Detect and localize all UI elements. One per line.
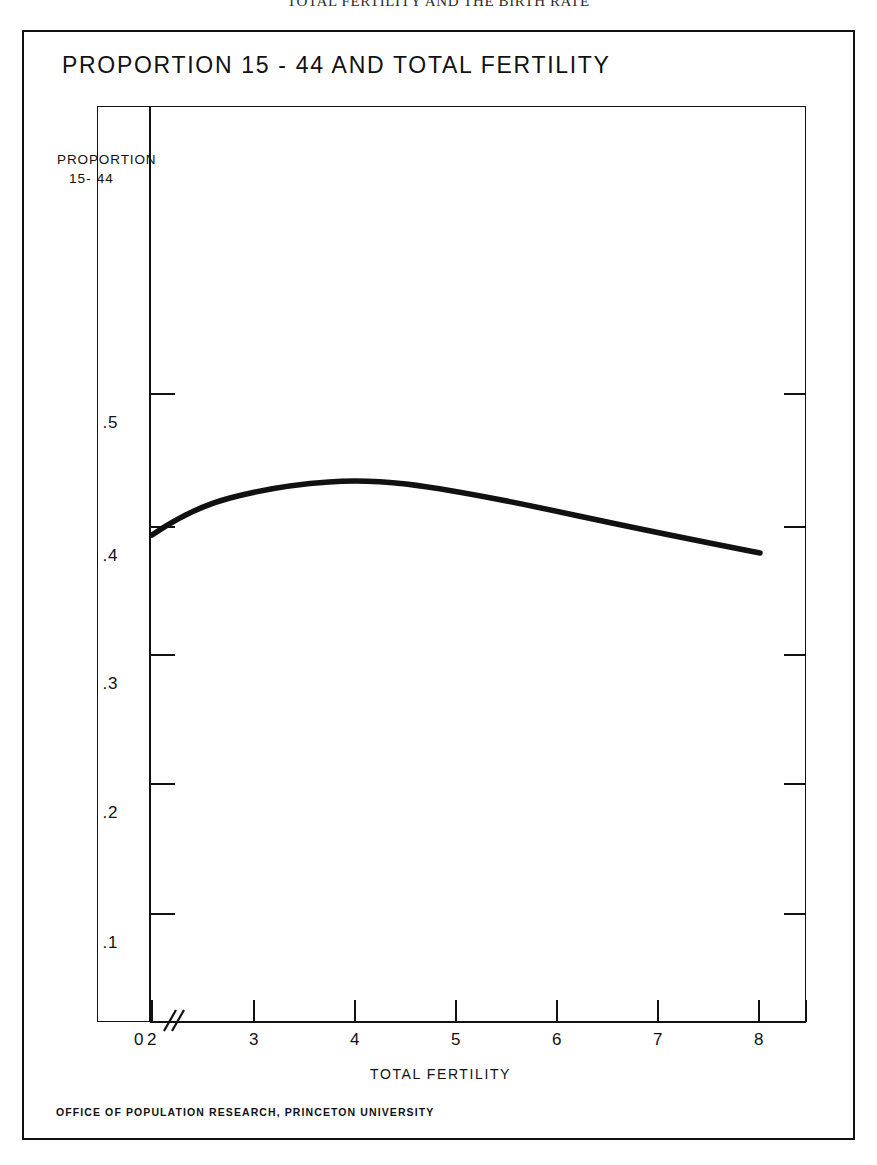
x-tick-label-8: 8	[744, 1030, 774, 1050]
x-tick-marks	[152, 1000, 806, 1022]
x-tick-label-5: 5	[441, 1030, 471, 1050]
page-running-header: TOTAL FERTILITY AND THE BIRTH RATE	[0, 0, 877, 10]
y-tick-label-0.4: .4	[76, 546, 118, 566]
x-tick-label-6: 6	[542, 1030, 572, 1050]
x-tick-label-3: 3	[239, 1030, 269, 1050]
x-tick-label-7: 7	[643, 1030, 673, 1050]
plate-footer-credit: OFFICE OF POPULATION RESEARCH, PRINCETON…	[56, 1106, 434, 1118]
axis-break-icon	[164, 1010, 184, 1031]
y-tick-label-0.1: .1	[76, 933, 118, 953]
y-tick-label-0.5: .5	[76, 413, 118, 433]
figure-plate: PROPORTION 15 - 44 AND TOTAL FERTILITY P…	[22, 30, 855, 1140]
x-axis-title: TOTAL FERTILITY	[24, 1066, 857, 1082]
plot-canvas	[24, 32, 857, 1142]
y-tick-marks-left	[150, 394, 175, 914]
y-tick-label-0.2: .2	[76, 803, 118, 823]
x-tick-label-2: 2	[137, 1030, 167, 1050]
x-tick-label-4: 4	[340, 1030, 370, 1050]
y-tick-label-0.3: .3	[76, 674, 118, 694]
fertility-curve	[152, 481, 760, 553]
y-tick-marks-right	[784, 394, 806, 914]
